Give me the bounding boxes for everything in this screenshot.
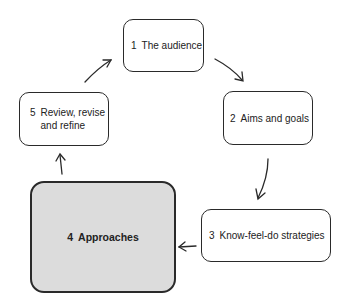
step-5-label-line1: Review, revise [41,106,105,119]
step-5-box: 5 Review, revise and refine [19,92,109,146]
step-2-text: 2Aims and goals [224,112,309,125]
arrow-1-to-2 [215,59,243,81]
step-5-label-line2: and refine [41,119,105,132]
step-3-label: Know-feel-do strategies [220,230,325,241]
step-3-text: 3Know-feel-do strategies [202,229,325,242]
step-2-box: 2Aims and goals [223,91,313,145]
step-3-box: 3Know-feel-do strategies [201,209,331,262]
step-3-number: 3 [209,230,215,241]
step-2-number: 2 [230,113,236,124]
step-1-label: The audience [142,40,203,51]
step-4-text: 4Approaches [67,231,139,244]
step-1-text: 1The audience [124,39,202,52]
step-2-label: Aims and goals [241,113,309,124]
arrow-2-to-3 [256,159,268,199]
step-1-number: 1 [131,40,137,51]
step-4-box-highlighted: 4Approaches [30,181,176,293]
step-1-box: 1The audience [123,19,204,72]
step-4-number: 4 [67,231,73,243]
step-5-text: 5 Review, revise and refine [20,106,105,132]
arrow-3-to-4 [179,242,196,251]
step-4-label: Approaches [78,231,139,243]
arrow-4-to-5 [56,154,65,174]
arrow-5-to-1 [85,60,111,82]
step-5-number: 5 [30,106,36,132]
